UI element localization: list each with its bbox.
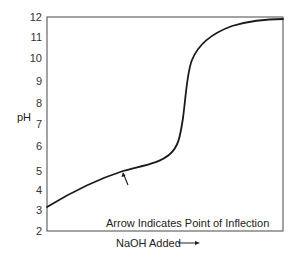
- y-axis-ticks: 12 11 10 9 8 7 6 5 4 3 2: [30, 11, 42, 237]
- y-tick-label: 7: [36, 118, 42, 130]
- x-axis-arrow-icon: [178, 241, 200, 245]
- y-tick-label: 4: [36, 184, 42, 196]
- x-axis-label: NaOH Added: [116, 237, 181, 249]
- y-tick-label: 12: [30, 11, 42, 23]
- y-tick-label: 11: [31, 31, 42, 43]
- y-tick-label: 10: [30, 52, 42, 64]
- y-tick-label: 8: [36, 97, 42, 109]
- y-tick-label: 6: [36, 140, 42, 152]
- y-tick-label: 3: [36, 204, 42, 216]
- y-tick-label: 5: [36, 165, 42, 177]
- titration-chart: 12 11 10 9 8 7 6 5 4 3 2 pH Arrow Indica…: [0, 0, 298, 258]
- y-axis-label: pH: [17, 111, 31, 123]
- y-tick-label: 2: [36, 225, 42, 237]
- annotation-text: Arrow Indicates Point of Inflection: [106, 217, 269, 229]
- titration-curve: [47, 19, 283, 207]
- inflection-arrow-icon: [122, 172, 129, 185]
- y-tick-label: 9: [36, 75, 42, 87]
- plot-frame: [47, 17, 283, 231]
